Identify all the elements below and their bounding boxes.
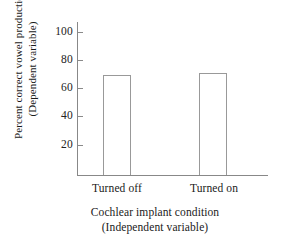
y-tick-label-100: 100: [39, 26, 73, 38]
x-tick-label-turned-on: Turned on: [174, 182, 254, 195]
y-tick-label-40: 40: [39, 110, 73, 122]
x-tick-label-turned-off: Turned off: [77, 182, 157, 195]
x-axis-title: Cochlear implant condition (Independent …: [40, 205, 270, 234]
y-axis-title-line-2: (Dependent variable): [26, 0, 40, 139]
y-tick-label-20: 20: [39, 139, 73, 151]
y-tick-mark-40: [78, 116, 83, 117]
y-tick-mark-60: [78, 88, 83, 89]
x-axis-title-line-1: Cochlear implant condition: [40, 205, 270, 220]
y-tick-mark-100: [78, 32, 83, 33]
y-axis-title-line-1: Percent correct vowel production: [12, 0, 26, 139]
y-tick-label-60: 60: [39, 82, 73, 94]
y-tick-mark-20: [78, 145, 83, 146]
bar-turned-off: [103, 75, 131, 175]
x-axis-title-line-2: (Independent variable): [40, 220, 270, 235]
bar-turned-on: [199, 73, 227, 175]
x-axis-line: [77, 175, 268, 176]
y-axis-title: Percent correct vowel production (Depend…: [12, 0, 42, 139]
y-axis-line: [77, 22, 78, 175]
y-tick-mark-80: [78, 60, 83, 61]
bar-chart-figure: Percent correct vowel production (Depend…: [0, 0, 282, 245]
y-tick-label-80: 80: [39, 54, 73, 66]
